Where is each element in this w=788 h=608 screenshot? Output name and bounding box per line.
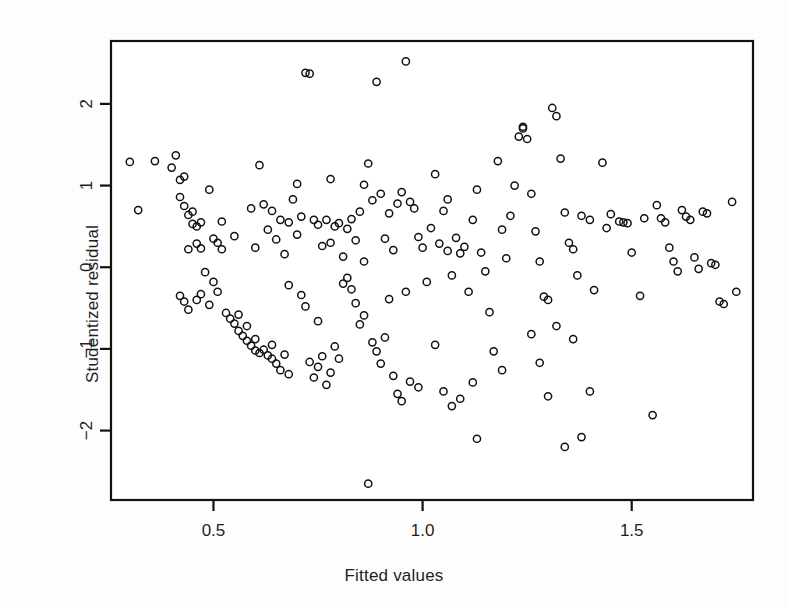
- plot-canvas: 0.51.01.5 −2−1012: [0, 0, 788, 608]
- plot-border: [111, 41, 753, 500]
- y-tick-label: −2: [78, 421, 97, 440]
- x-tick-label: 1.0: [411, 521, 435, 540]
- x-axis-title: Fitted values: [0, 566, 788, 586]
- x-tick-label: 1.5: [620, 521, 644, 540]
- plot-frame: [111, 41, 753, 500]
- y-axis-title: Studentized residual: [83, 225, 103, 383]
- y-tick-label: 2: [78, 99, 97, 108]
- y-tick-label: 1: [78, 181, 97, 190]
- x-axis-ticks: 0.51.01.5: [202, 500, 644, 540]
- scatter-plot-figure: 0.51.01.5 −2−1012 Studentized residual F…: [0, 0, 788, 608]
- x-tick-label: 0.5: [202, 521, 226, 540]
